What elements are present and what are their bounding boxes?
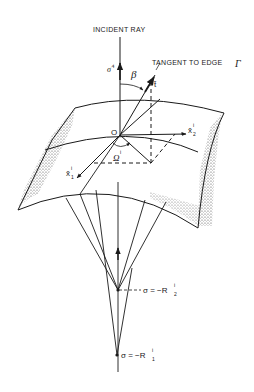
edge-gamma-label: Γ	[234, 58, 241, 69]
tangent-label: TANGENT TO EDGE	[152, 59, 223, 66]
caustic2-sup: i	[174, 282, 175, 288]
omega-sup: i	[120, 149, 121, 155]
caustic1-sub: 1	[152, 356, 155, 362]
diagram-canvas: INCIDENT RAY TANGENT TO EDGE Γ σ̂ i β t̂…	[0, 0, 254, 392]
origin-label: O	[111, 128, 117, 137]
x2-label: x̂	[188, 126, 192, 135]
beta-arc	[120, 84, 143, 90]
x1-label: x̂	[66, 169, 70, 178]
x1-sup: i	[71, 165, 72, 171]
t-hat-arrow	[145, 77, 154, 92]
incident-ray-label: INCIDENT RAY	[93, 26, 145, 33]
x1-sub: 1	[71, 174, 74, 180]
caustic-point-1	[115, 353, 118, 356]
omega-line	[120, 135, 151, 163]
omega-arc	[113, 143, 130, 147]
x2-sup: i	[193, 122, 194, 128]
second-ray	[120, 99, 160, 135]
x2-sub: 2	[193, 131, 196, 137]
x2-axis	[120, 134, 186, 135]
t-hat-label: t̂	[153, 80, 157, 89]
caustic1-sup: i	[152, 347, 153, 353]
omega-label: Ω	[113, 153, 120, 163]
caustic2-label: σ = −R	[143, 286, 168, 295]
beta-label: β	[130, 68, 137, 80]
caustic2-sub: 2	[174, 291, 177, 297]
sigma-sup: i	[113, 63, 114, 69]
caustic1-label: σ = −R	[121, 351, 146, 360]
converging-rays	[66, 135, 166, 372]
